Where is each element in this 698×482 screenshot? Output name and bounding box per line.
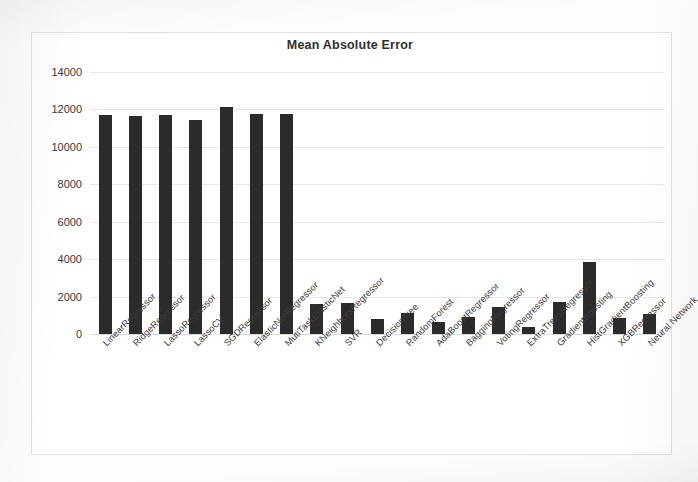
bar[interactable] — [220, 107, 233, 334]
bar[interactable] — [492, 307, 505, 334]
gridline — [90, 222, 665, 223]
y-axis-tick-label: 4000 — [22, 253, 82, 265]
bar[interactable] — [99, 115, 112, 334]
y-axis-tick-label: 14000 — [22, 66, 82, 78]
bar[interactable] — [280, 114, 293, 334]
gridline — [90, 184, 665, 185]
y-axis-tick-label: 2000 — [22, 291, 82, 303]
y-axis-tick-label: 0 — [22, 328, 82, 340]
gridline — [90, 334, 665, 335]
bar[interactable] — [522, 327, 535, 334]
gridline — [90, 147, 665, 148]
y-axis-tick-labels: 14000120001000080006000400020000 — [20, 72, 82, 334]
y-axis-tick-label: 12000 — [22, 103, 82, 115]
chart-title: Mean Absolute Error — [200, 38, 500, 52]
bar[interactable] — [341, 303, 354, 334]
y-axis-tick-label: 10000 — [22, 141, 82, 153]
bar[interactable] — [583, 262, 596, 334]
gridline — [90, 259, 665, 260]
bar[interactable] — [553, 302, 566, 334]
bar[interactable] — [250, 114, 263, 334]
bar[interactable] — [129, 116, 142, 334]
bar[interactable] — [432, 322, 445, 334]
chart-screenshot: Mean Absolute Error 14000120001000080006… — [0, 0, 698, 482]
y-axis-tick-label: 8000 — [22, 178, 82, 190]
bar[interactable] — [371, 319, 384, 334]
bar[interactable] — [159, 115, 172, 334]
y-axis-tick-label: 6000 — [22, 216, 82, 228]
bar[interactable] — [401, 313, 414, 334]
bar[interactable] — [613, 318, 626, 334]
bar[interactable] — [643, 314, 656, 334]
bar[interactable] — [462, 317, 475, 334]
gridline — [90, 72, 665, 73]
gridline — [90, 109, 665, 110]
bar[interactable] — [310, 304, 323, 334]
gridline — [90, 297, 665, 298]
plot-area — [90, 72, 665, 334]
bar[interactable] — [189, 120, 202, 334]
